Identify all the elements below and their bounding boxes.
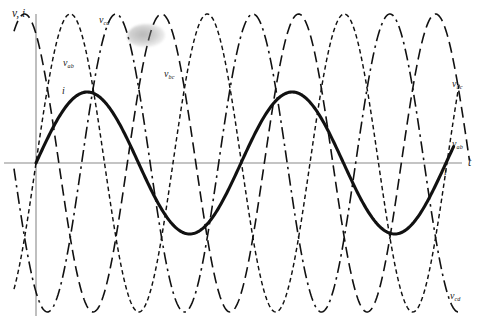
waveform-figure: v, i t i i vab vcd vbc vbc vab vcd [0,0,481,324]
waveform-plot [0,0,481,324]
curve-label-v-cd-top: vcd [99,15,110,25]
x-axis-label: t [468,157,471,169]
curve-label-v-bc-right: vbc [452,79,463,89]
y-axis-label: v, i [12,8,25,20]
v-ab-right-sub: ab [456,143,462,150]
curve-label-v-bc-mid: vbc [164,69,175,79]
curve-label-i-right: i [444,167,447,177]
v-bc-right-sub: bc [456,83,462,90]
curve-label-v-ab-right: vab [452,139,463,149]
v-bc-mid-sub: bc [168,73,174,80]
v-cd-bottom-sub: cd [454,295,460,302]
curve-label-v-cd-bottom: vcd [450,291,461,301]
curve-label-i-left: i [62,86,65,96]
curve-label-v-ab-left: vab [63,58,74,68]
v-cd-top-sub: cd [103,19,109,26]
v-ab-left-sub: ab [67,62,73,69]
